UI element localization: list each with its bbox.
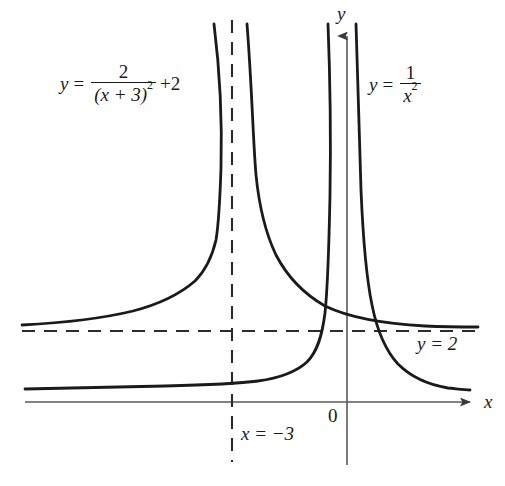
- equation-label-reciprocal-curve: y = 1 x2: [369, 63, 423, 106]
- vertical-asymptote-label: x = −3: [241, 424, 294, 443]
- origin-label: 0: [328, 406, 338, 425]
- equation-denominator-exponent-right: 2: [412, 79, 418, 93]
- horizontal-asymptote-label: y = 2: [417, 334, 457, 353]
- x-axis-label: x: [484, 392, 492, 411]
- equation-label-shifted-curve: y = 2 (x + 3)2 +2: [60, 62, 180, 105]
- equation-lhs-left: y: [60, 74, 68, 93]
- y-axis-label: y: [337, 4, 345, 23]
- curve-shifted-right-branch: [247, 24, 478, 327]
- equation-lhs-right: y: [369, 75, 377, 94]
- equation-denominator-base-right: x: [403, 86, 411, 107]
- equation-fraction-left: 2 (x + 3)2: [91, 62, 156, 105]
- equation-denominator-exponent-left: 2: [147, 78, 153, 92]
- equation-trailing-left: +2: [160, 74, 180, 93]
- figure-canvas: y = 2 (x + 3)2 +2 y = 1 x2 y = 2 x = −3 …: [0, 0, 505, 486]
- equation-denominator-base-left: (x + 3): [94, 85, 147, 106]
- equation-fraction-right: 1 x2: [400, 63, 420, 106]
- equation-equals-left: =: [73, 74, 84, 93]
- equation-numerator-left: 2: [116, 62, 132, 82]
- equation-denominator-left: (x + 3)2: [91, 82, 156, 105]
- equation-equals-right: =: [382, 75, 393, 94]
- equation-denominator-right: x2: [400, 83, 420, 106]
